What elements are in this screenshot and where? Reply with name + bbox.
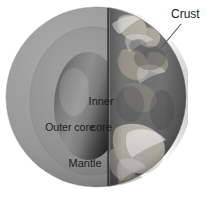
crust-label: Crust [171, 8, 211, 20]
inner-core-label-line1: Inner [89, 95, 114, 107]
mantle-label: Mantle [58, 157, 112, 169]
inner-core-label: Inner core [72, 82, 118, 147]
earth-cutaway-figure: Inner core Outer core Mantle Crust [0, 0, 214, 200]
outer-core-label: Outer core [34, 121, 106, 133]
